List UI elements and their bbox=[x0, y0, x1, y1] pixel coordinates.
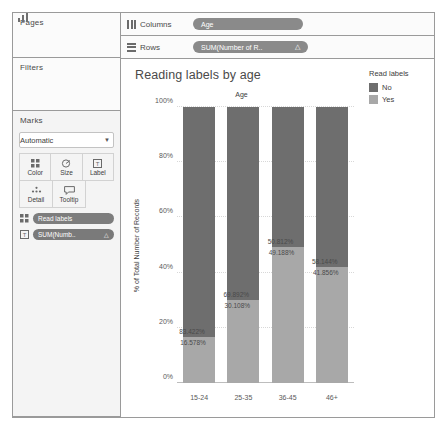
bar-stack[interactable]: 58.144%41.856% bbox=[316, 107, 348, 383]
label-icon: T bbox=[93, 158, 102, 169]
marks-pill-sum-number[interactable]: SUM(Numb.. △ bbox=[33, 229, 114, 240]
bar-label-yes: 30.108% bbox=[224, 302, 250, 309]
bar-segment-yes[interactable]: 16.578% bbox=[183, 337, 215, 383]
tableau-worksheet-window: Pages Filters Marks Automatic ▼ Color bbox=[12, 12, 435, 418]
svg-text:T: T bbox=[23, 232, 27, 238]
marks-pill-sum-number-label: SUM(Numb.. bbox=[38, 231, 76, 238]
marks-button-grid-row1: Color Size T Label bbox=[19, 153, 114, 181]
mark-type-label: Automatic bbox=[20, 136, 53, 145]
y-axis-title: % of Total Number of Records bbox=[131, 107, 143, 383]
rows-shelf[interactable]: Rows SUM(Number of R.. △ bbox=[121, 36, 434, 59]
view-area: Reading labels by age Age % of Total Num… bbox=[121, 59, 434, 417]
marks-color-button[interactable]: Color bbox=[20, 154, 51, 181]
marks-detail-button[interactable]: Detail bbox=[20, 181, 53, 208]
y-axis-tick-label: 40% bbox=[159, 262, 173, 269]
color-legend[interactable]: Read labels NoYes bbox=[362, 59, 434, 417]
rows-shelf-label-group: Rows bbox=[121, 43, 193, 52]
marks-pill-read-labels-row[interactable]: Read labels bbox=[19, 213, 114, 224]
bar-label-yes: 41.856% bbox=[313, 269, 339, 276]
marks-pill-read-labels[interactable]: Read labels bbox=[33, 213, 114, 224]
bar-chart-icon bbox=[17, 13, 28, 22]
legend-item[interactable]: Yes bbox=[369, 95, 434, 104]
legend-items: NoYes bbox=[369, 83, 434, 104]
marks-tooltip-button[interactable]: Tooltip bbox=[53, 181, 86, 208]
marks-card[interactable]: Marks Automatic ▼ Color Size bbox=[13, 111, 120, 417]
bar-segment-yes[interactable]: 30.108% bbox=[227, 300, 259, 383]
bar-segment-no[interactable]: 50.812% bbox=[272, 107, 304, 247]
y-axis-tick-label: 100% bbox=[155, 97, 173, 104]
marks-pill-read-labels-label: Read labels bbox=[38, 215, 72, 222]
y-axis-tick-label: 0% bbox=[163, 373, 173, 380]
bar-label-no: 69.892% bbox=[223, 291, 249, 298]
rows-pill-label: SUM(Number of R.. bbox=[201, 44, 262, 51]
x-axis-tick-label: 25-35 bbox=[227, 394, 259, 401]
y-axis-tick-label: 60% bbox=[159, 207, 173, 214]
bar-series-group: 83.422%16.578%69.892%30.108%50.812%49.18… bbox=[177, 107, 354, 383]
rows-pill-delta: △ bbox=[295, 43, 300, 51]
y-axis-tick-label: 80% bbox=[159, 152, 173, 159]
legend-item-label: No bbox=[382, 83, 392, 92]
x-axis-tick-label: 36-45 bbox=[272, 394, 304, 401]
plot-area: % of Total Number of Records 0%20%40%60%… bbox=[177, 107, 354, 383]
bar-label-yes: 16.578% bbox=[180, 339, 206, 346]
marks-button-grid-row2: Detail Tooltip bbox=[19, 181, 86, 208]
bar-stack[interactable]: 69.892%30.108% bbox=[227, 107, 259, 383]
label-icon: T bbox=[19, 230, 30, 239]
bar-stack[interactable]: 83.422%16.578% bbox=[183, 107, 215, 383]
bar-label-no: 83.422% bbox=[179, 328, 205, 335]
detail-icon bbox=[31, 185, 42, 196]
filters-card-title: Filters bbox=[13, 58, 120, 72]
marks-label-label: Label bbox=[90, 170, 106, 177]
x-axis-tick-label: 15-24 bbox=[183, 394, 215, 401]
x-axis-tick-labels: 15-2425-3536-4546+ bbox=[177, 394, 354, 401]
bar-label-no: 50.812% bbox=[268, 238, 294, 245]
columns-pill-age[interactable]: Age bbox=[193, 18, 303, 30]
bar-segment-yes[interactable]: 49.188% bbox=[272, 247, 304, 383]
rows-shelf-label: Rows bbox=[140, 43, 160, 52]
x-axis-tick-label: 46+ bbox=[316, 394, 348, 401]
columns-shelf-label-group: Columns bbox=[121, 20, 193, 29]
bar-label-no: 58.144% bbox=[312, 258, 338, 265]
tooltip-icon bbox=[64, 185, 75, 196]
color-icon bbox=[31, 158, 40, 169]
color-icon bbox=[19, 214, 30, 223]
filters-card[interactable]: Filters bbox=[13, 58, 120, 111]
marks-size-label: Size bbox=[60, 170, 73, 177]
left-shelf-column: Pages Filters Marks Automatic ▼ Color bbox=[13, 13, 121, 417]
y-axis-tick-label: 20% bbox=[159, 317, 173, 324]
marks-label-button[interactable]: T Label bbox=[83, 154, 114, 181]
rows-pill-sum-number-of-records[interactable]: SUM(Number of R.. △ bbox=[193, 41, 308, 53]
page-title: Reading labels by age bbox=[135, 68, 261, 82]
columns-shelf-label: Columns bbox=[140, 20, 172, 29]
bar-label-yes: 49.188% bbox=[269, 249, 295, 256]
columns-icon bbox=[127, 20, 136, 29]
chart-canvas[interactable]: Reading labels by age Age % of Total Num… bbox=[121, 59, 362, 417]
bar-segment-no[interactable]: 69.892% bbox=[227, 107, 259, 300]
pages-card[interactable]: Pages bbox=[13, 13, 120, 58]
columns-shelf[interactable]: Columns Age bbox=[121, 13, 434, 36]
legend-swatch bbox=[369, 83, 378, 92]
marks-size-button[interactable]: Size bbox=[51, 154, 82, 181]
marks-card-title: Marks bbox=[13, 111, 120, 125]
marks-color-label: Color bbox=[27, 170, 43, 177]
svg-text:T: T bbox=[96, 160, 100, 166]
mark-type-dropdown[interactable]: Automatic ▼ bbox=[19, 132, 114, 148]
legend-title: Read labels bbox=[369, 69, 434, 78]
bar-segment-no[interactable]: 58.144% bbox=[316, 107, 348, 267]
bar-segment-no[interactable]: 83.422% bbox=[183, 107, 215, 337]
bar-stack[interactable]: 50.812%49.188% bbox=[272, 107, 304, 383]
size-icon bbox=[61, 158, 71, 169]
worksheet-right-column: Columns Age Rows SUM(Number of R.. △ Rea… bbox=[121, 13, 434, 417]
marks-pill-sum-number-delta: △ bbox=[104, 231, 109, 238]
columns-pill-age-label: Age bbox=[201, 21, 213, 28]
legend-item[interactable]: No bbox=[369, 83, 434, 92]
pages-card-title: Pages bbox=[13, 13, 120, 27]
legend-item-label: Yes bbox=[382, 95, 394, 104]
marks-tooltip-label: Tooltip bbox=[60, 197, 79, 204]
marks-detail-label: Detail bbox=[28, 197, 45, 204]
legend-swatch bbox=[369, 95, 378, 104]
bar-segment-yes[interactable]: 41.856% bbox=[316, 267, 348, 383]
rows-icon bbox=[127, 43, 136, 52]
chevron-down-icon: ▼ bbox=[104, 137, 110, 143]
marks-pill-sum-number-row[interactable]: T SUM(Numb.. △ bbox=[19, 229, 114, 240]
